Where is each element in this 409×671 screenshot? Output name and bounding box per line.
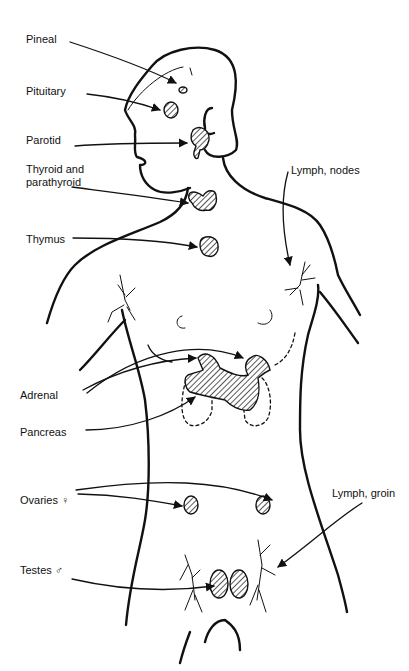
head-outline bbox=[125, 48, 237, 193]
rib-mark bbox=[275, 333, 295, 365]
label-parotid: Parotid bbox=[26, 134, 61, 147]
label-adrenal: Adrenal bbox=[20, 389, 58, 402]
testis-right bbox=[230, 570, 248, 598]
label-ovaries: Ovaries ♀ bbox=[20, 494, 69, 507]
lymph-node-right-axilla bbox=[285, 262, 315, 305]
label-pancreas: Pancreas bbox=[20, 426, 66, 439]
label-lymph-groin: Lymph, groin bbox=[332, 487, 395, 500]
pituitary-gland bbox=[164, 102, 178, 118]
label-parathyroid: parathyroid bbox=[26, 176, 81, 189]
label-lymph-nodes: Lymph, nodes bbox=[291, 164, 360, 177]
label-pituitary: Pituitary bbox=[26, 85, 66, 98]
label-thymus: Thymus bbox=[26, 233, 65, 246]
label-pineal: Pineal bbox=[26, 33, 57, 46]
lymph-node-left-axilla bbox=[108, 275, 135, 322]
lymph-node-groin-left bbox=[180, 555, 202, 612]
nipple-right bbox=[258, 310, 272, 324]
thymus-gland bbox=[200, 237, 218, 257]
label-testes: Testes ♂ bbox=[20, 564, 63, 577]
leader-arrows bbox=[70, 42, 362, 589]
ovary-left bbox=[184, 496, 198, 514]
lymph-node-groin-right bbox=[250, 540, 275, 612]
pineal-gland bbox=[179, 87, 187, 93]
adrenal-pancreas bbox=[185, 354, 270, 410]
label-thyroid: Thyroid and bbox=[26, 163, 84, 176]
endocrine-diagram: Pineal Pituitary Parotid Thyroid and par… bbox=[0, 0, 409, 671]
testis-left bbox=[210, 570, 228, 598]
thyroid-gland bbox=[189, 191, 217, 211]
nipple-left bbox=[177, 316, 185, 328]
